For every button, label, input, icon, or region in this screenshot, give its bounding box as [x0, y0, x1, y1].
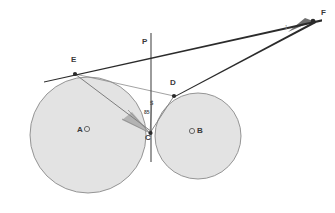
figure-canvas: [0, 0, 335, 213]
label-point-d: D: [170, 79, 176, 87]
label-point-f: F: [321, 9, 326, 17]
label-point-c: C: [145, 134, 151, 142]
geometry-figure: E P D C F S 85 1 A B: [0, 0, 335, 213]
label-point-s: S: [150, 101, 153, 106]
tangent-line-e-f: [44, 19, 322, 82]
label-angle-at-f: 1: [285, 26, 288, 31]
label-circle-a-center: A: [77, 126, 83, 134]
label-angle-at-c: 85: [144, 110, 150, 115]
circle-a: [30, 77, 146, 193]
label-circle-b-center: B: [197, 127, 203, 135]
point-e: [73, 72, 77, 76]
point-d: [172, 94, 176, 98]
point-f: [311, 19, 316, 24]
label-point-e: E: [71, 56, 76, 64]
segment-d-f: [174, 21, 316, 98]
label-point-p: P: [142, 38, 147, 46]
